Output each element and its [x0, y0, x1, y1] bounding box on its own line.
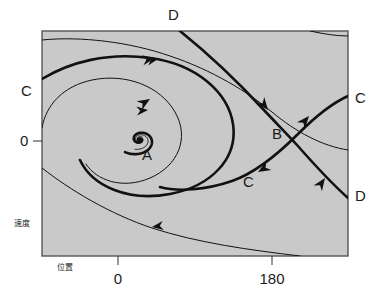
plot-area: [42, 31, 348, 256]
label-d-top: D: [168, 7, 179, 22]
phase-portrait-figure: DCCDBCA01800位置速度: [0, 0, 381, 299]
focus-point-a: [137, 137, 142, 142]
x-tick-label-1: 180: [259, 271, 284, 286]
label-c-left: C: [21, 83, 32, 98]
label-d-right: D: [355, 188, 366, 203]
phase-portrait-svg: [0, 0, 381, 299]
label-c-middle: C: [243, 174, 254, 189]
label-c-right: C: [355, 90, 366, 105]
label-b-saddle: B: [272, 126, 282, 141]
y-tick-label-0: 0: [20, 133, 28, 148]
x-tick-label-0: 0: [114, 271, 122, 286]
y-axis-label: 速度: [14, 220, 30, 228]
label-a-focus: A: [142, 147, 152, 162]
x-axis-label: 位置: [57, 264, 73, 272]
